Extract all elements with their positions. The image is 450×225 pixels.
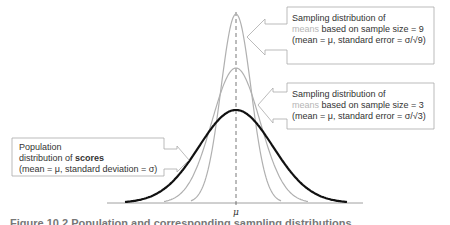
callout-pop-line1: Population (19, 142, 157, 153)
scores-highlight: scores (75, 153, 104, 163)
callout-n3-line3: (mean = μ, standard error = σ/√3) (292, 111, 426, 122)
callout-n3-line1: Sampling distribution of (292, 89, 426, 100)
callout-pop-line2: distribution of scores (19, 153, 157, 164)
callout-pop-line3: (mean = μ, standard deviation = σ) (19, 164, 157, 175)
mu-axis-label: μ (233, 207, 239, 217)
callout-pop-line2-pre: distribution of (19, 153, 75, 163)
callout-text-n3: Sampling distribution of means based on … (292, 89, 426, 122)
callout-n3-line2: means based on sample size = 3 (292, 100, 426, 111)
callout-text-population: Population distribution of scores (mean … (19, 142, 157, 175)
means-highlight: means (292, 24, 319, 34)
callout-n9-line1: Sampling distribution of (292, 13, 426, 24)
callout-text-n9: Sampling distribution of means based on … (292, 13, 426, 46)
callout-n9-line2: means based on sample size = 9 (292, 24, 426, 35)
callout-n3-line2-rest: based on sample size = 3 (319, 100, 424, 110)
callout-n9-line3: (mean = μ, standard error = σ/√9) (292, 35, 426, 46)
callout-n9-line2-rest: based on sample size = 9 (319, 24, 424, 34)
means-highlight: means (292, 100, 319, 110)
figure-caption: Figure 10.2 Population and corresponding… (10, 217, 352, 225)
